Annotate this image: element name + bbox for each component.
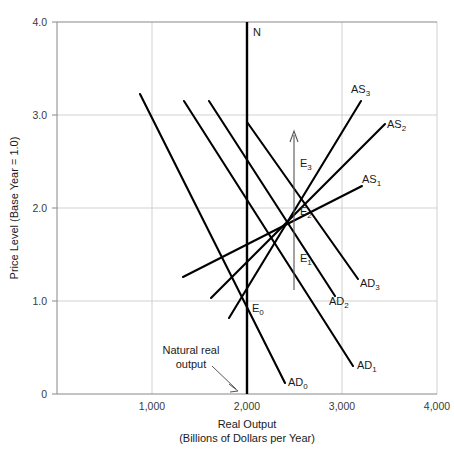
x-tick-labels: 1,000 2,000 3,000 4,000 — [139, 400, 450, 412]
curve-label-AS3: AS3 — [351, 83, 371, 98]
natural-real-output-line2: output — [176, 358, 207, 370]
curve-AD0 — [140, 94, 285, 383]
curve-label-AD2: AD2 — [329, 295, 349, 310]
curve-label-AD3: AD3 — [360, 277, 380, 292]
x-tick-label-3000: 3,000 — [329, 400, 355, 412]
curve-labels: N AD0 AD1 AD2 AD3 AS1 AS2 AS3 — [253, 26, 407, 391]
y-tick-label-4: 4.0 — [32, 16, 47, 28]
x-tick-label-4000: 4,000 — [424, 400, 450, 412]
x-tick-label-1000: 1,000 — [139, 400, 165, 412]
curve-AS2 — [211, 124, 385, 298]
equilibrium-label-E0: E0 — [252, 302, 264, 317]
y-axis-title: Price Level (Base Year = 1.0) — [8, 137, 20, 280]
curve-label-AS2: AS2 — [387, 118, 407, 133]
y-tick-labels: 4.0 3.0 2.0 1.0 0 — [32, 16, 47, 400]
equilibrium-label-E3: E3 — [300, 157, 312, 172]
x-tick-label-2000: 2,000 — [234, 400, 260, 412]
ad-as-chart: 4.0 3.0 2.0 1.0 0 1,000 2,000 3,000 4,00… — [0, 0, 454, 449]
natural-real-output-line1: Natural real — [163, 344, 220, 356]
curve-label-N: N — [253, 26, 261, 38]
chart-svg: 4.0 3.0 2.0 1.0 0 1,000 2,000 3,000 4,00… — [0, 0, 454, 449]
x-axis-title: Real Output — [218, 418, 277, 430]
equilibrium-label-E1: E1 — [300, 252, 312, 267]
y-tick-label-3: 3.0 — [32, 109, 47, 121]
curve-AD2 — [209, 101, 335, 296]
y-tick-label-0: 0 — [41, 388, 47, 400]
y-tick-label-1: 1.0 — [32, 295, 47, 307]
adjustment-arrow — [290, 131, 298, 290]
curve-label-AS1: AS1 — [362, 173, 382, 188]
natural-real-output-arrow-shaft — [212, 366, 236, 389]
y-tick-label-2: 2.0 — [32, 202, 47, 214]
natural-real-output-annotation: Natural real output — [163, 344, 238, 392]
x-axis-subtitle: (Billions of Dollars per Year) — [179, 432, 315, 444]
natural-real-output-arrow-head — [229, 384, 238, 392]
curve-label-AD1: AD1 — [357, 359, 377, 374]
curve-label-AD0: AD0 — [288, 376, 308, 391]
